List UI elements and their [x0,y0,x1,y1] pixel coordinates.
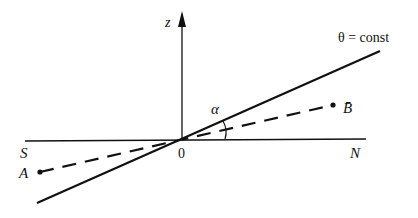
point-b-label: B̄ [343,100,352,116]
point-a-label: A [18,165,29,181]
theta-const-line [37,51,380,203]
diagram-canvas: z θ = const α B̄ S 0 N A [0,0,418,218]
origin-label: 0 [178,146,185,161]
south-label: S [20,145,28,161]
angle-alpha-label: α [211,101,220,117]
point-a-dot [37,169,42,174]
theta-const-label: θ = const [338,30,389,45]
z-axis-label: z [164,15,171,30]
horizontal-axis-sn [25,139,366,141]
z-axis-arrowhead-icon [178,11,186,27]
point-b-dot [330,102,335,107]
north-label: N [349,145,361,161]
dashed-line-a-b [40,105,333,172]
